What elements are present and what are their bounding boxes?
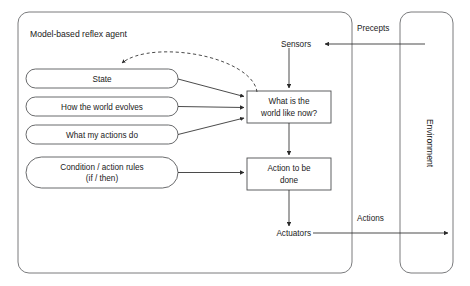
sensors-label: Sensors [281, 40, 311, 49]
node-what-my-actions-do-label: What my actions do [66, 131, 138, 140]
connector-actions-to-world [178, 118, 244, 135]
node-how-the-world-evolves-label: How the world evolves [61, 103, 143, 112]
percepts-label: Precepts [357, 24, 389, 33]
node-what-is-the-world-like-now-label-line2: world like now? [260, 109, 317, 118]
node-what-is-the-world-like-now-label-line1: What is the [269, 97, 310, 106]
connector-evolves-to-world [178, 107, 244, 108]
node-condition-action-rules-label-line1: Condition / action rules [60, 163, 143, 172]
environment-label: Environment [425, 119, 435, 168]
diagram-canvas: Model-based reflex agent State How the w… [0, 0, 470, 286]
connector-state-to-world [178, 79, 244, 97]
node-action-to-be-done-label-line1: Action to be [267, 164, 311, 173]
node-what-is-the-world-like-now[interactable] [247, 91, 331, 123]
agent-title: Model-based reflex agent [30, 29, 128, 39]
node-action-to-be-done[interactable] [247, 158, 331, 190]
node-state-label: State [92, 75, 112, 84]
actions-label: Actions [357, 214, 384, 223]
node-action-to-be-done-label-line2: done [280, 176, 299, 185]
actuators-label: Actuators [276, 229, 311, 238]
node-condition-action-rules-label-line2: (if / then) [86, 174, 119, 183]
